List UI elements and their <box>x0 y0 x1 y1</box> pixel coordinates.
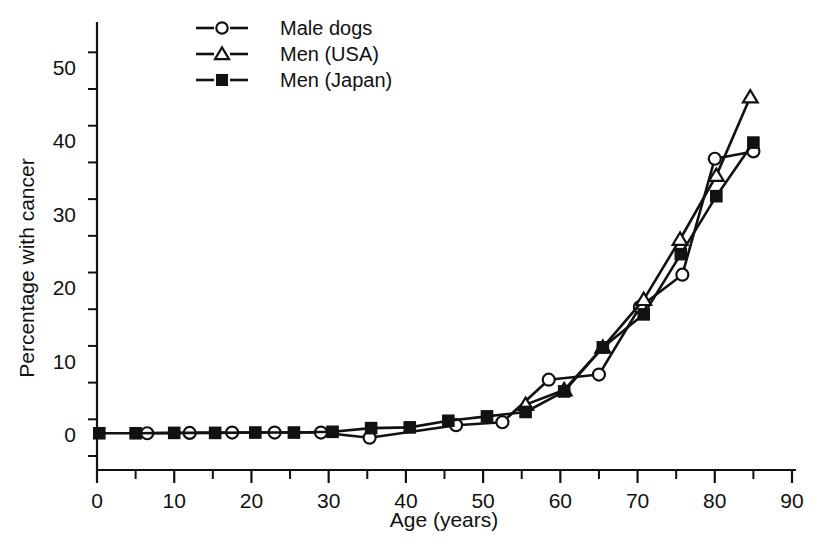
legend-label: Men (Japan) <box>280 69 392 91</box>
x-axis-label: Age (years) <box>390 508 499 531</box>
marker-filled-square <box>638 309 649 320</box>
marker-open-circle <box>593 369 605 381</box>
chart-background <box>0 0 836 558</box>
marker-filled-square <box>711 191 722 202</box>
marker-open-circle <box>676 269 688 281</box>
marker-filled-square <box>520 406 531 417</box>
y-tick-label: 30 <box>53 203 76 226</box>
marker-filled-square <box>748 137 759 148</box>
x-tick-label: 30 <box>317 489 340 512</box>
x-tick-label: 70 <box>626 489 649 512</box>
marker-filled-square <box>404 422 415 433</box>
marker-filled-square <box>210 427 221 438</box>
x-tick-label: 10 <box>163 489 186 512</box>
marker-filled-square <box>94 428 105 439</box>
x-tick-label: 20 <box>240 489 263 512</box>
x-tick-label: 60 <box>549 489 572 512</box>
marker-filled-square <box>327 426 338 437</box>
marker-filled-square <box>217 75 228 86</box>
x-tick-label: 90 <box>780 489 803 512</box>
marker-filled-square <box>559 386 570 397</box>
y-tick-label: 40 <box>53 129 76 152</box>
marker-filled-square <box>675 249 686 260</box>
x-tick-label: 0 <box>91 489 103 512</box>
y-tick-label: 20 <box>53 276 76 299</box>
legend-label: Male dogs <box>280 17 372 39</box>
x-tick-label: 80 <box>703 489 726 512</box>
marker-open-circle <box>216 22 227 33</box>
marker-filled-square <box>169 427 180 438</box>
marker-open-circle <box>496 416 508 428</box>
marker-filled-square <box>366 423 377 434</box>
marker-filled-square <box>250 427 261 438</box>
marker-filled-square <box>481 411 492 422</box>
marker-filled-square <box>597 342 608 353</box>
y-tick-label: 50 <box>53 56 76 79</box>
marker-open-circle <box>709 153 721 165</box>
cancer-vs-age-chart: 010203040500102030405060708090 Male dogs… <box>0 0 836 558</box>
legend-layer: Male dogsMen (USA)Men (Japan) <box>196 17 392 91</box>
y-axis-label: Percentage with cancer <box>15 158 38 377</box>
legend-label: Men (USA) <box>280 43 379 65</box>
marker-filled-square <box>443 415 454 426</box>
marker-open-circle <box>543 374 555 386</box>
y-tick-label: 10 <box>53 350 76 373</box>
marker-filled-square <box>288 427 299 438</box>
marker-filled-square <box>130 428 141 439</box>
y-tick-label: 0 <box>64 423 76 446</box>
